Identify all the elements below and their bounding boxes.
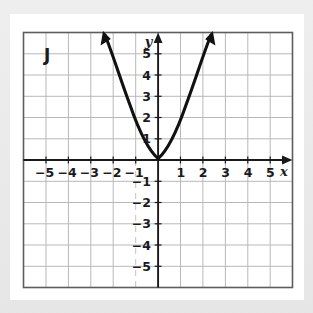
y-tick-label: −5 [132,259,151,274]
y-tick-label: −1 [132,174,151,189]
y-tick-labels-positive: 5 4 3 2 1 [142,46,151,146]
x-tick-label: 4 [244,165,253,180]
y-tick-label: −2 [132,195,151,210]
x-tick-label: −3 [80,165,99,180]
y-tick-label: 4 [142,68,151,83]
y-tick-label: 3 [142,89,151,104]
panel-label: J [44,47,50,64]
y-tick-labels-negative: −1 −2 −3 −4 −5 [132,174,151,274]
x-axis-label: x [279,164,288,179]
x-tick-label: 1 [176,165,185,180]
x-tick-label: 3 [221,165,230,180]
y-axis-label: y [144,34,154,49]
x-tick-label: −4 [57,165,76,180]
x-tick-label: 2 [199,165,208,180]
y-tick-label: −4 [132,238,151,253]
x-tick-label: 5 [266,165,275,180]
figure-page: −5 −4 −3 −2 −1 1 2 3 4 5 5 4 3 2 1 − [0,0,313,313]
y-tick-label: 1 [142,131,151,146]
x-tick-label: −5 [35,165,54,180]
x-tick-label: −2 [102,165,121,180]
y-tick-label: 2 [142,110,151,125]
y-tick-label: −3 [132,216,151,231]
